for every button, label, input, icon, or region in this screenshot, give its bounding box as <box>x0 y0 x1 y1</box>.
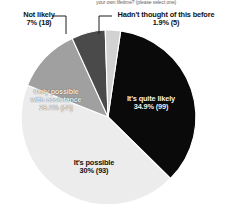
slice-label-its-possible: It's possible 30% (93) <box>52 159 136 175</box>
slice-value-text: 26.2% (52) <box>14 104 98 112</box>
slice-label-its-quite-likely: It's quite likely 34.9% (99) <box>108 95 194 111</box>
slice-label-not-likely: Not likely 7% (18) <box>8 11 70 27</box>
pie-canvas <box>16 26 201 204</box>
slice-value-text: 30% (93) <box>52 167 136 175</box>
slice-value-text: 7% (18) <box>8 19 70 27</box>
slice-label-only-possible-with-assistance: Only possible with assistance 26.2% (52) <box>14 88 98 111</box>
slice-label-hadnt-thought-of-this-before: Hadn't thought of this before 1.9% (5) <box>100 11 232 27</box>
pie-chart-figure: your own lifetime? (please select one) I… <box>0 0 235 211</box>
slice-value-text: 1.9% (5) <box>100 19 232 27</box>
slice-value-text: 34.9% (99) <box>108 103 194 111</box>
clipped-header-text: your own lifetime? (please select one) <box>96 0 235 5</box>
